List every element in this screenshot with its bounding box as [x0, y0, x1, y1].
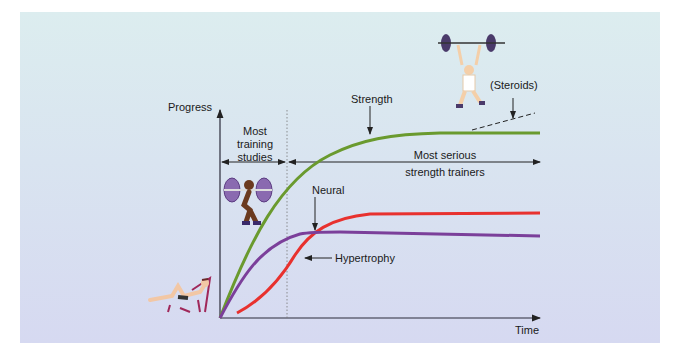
steroids-label: (Steroids): [490, 79, 538, 92]
overhead-lifter-icon: [438, 34, 505, 108]
hypertrophy-label: Hypertrophy: [335, 252, 395, 265]
squatting-lifter-icon: [224, 178, 272, 225]
x-axis-label: Time: [515, 324, 539, 337]
y-axis-label: Progress: [168, 101, 212, 114]
most-serious-label-2: strength trainers: [385, 166, 505, 179]
progress-chart: [0, 0, 683, 355]
most-serious-label-1: Most serious: [385, 149, 505, 162]
steroids-line: [472, 113, 535, 130]
neural-label: Neural: [312, 184, 344, 197]
strength-label: Strength: [351, 93, 393, 106]
neural-curve: [220, 232, 540, 318]
reclining-person-icon: [150, 278, 210, 312]
most-training-studies-label: Most training studies: [226, 125, 284, 164]
